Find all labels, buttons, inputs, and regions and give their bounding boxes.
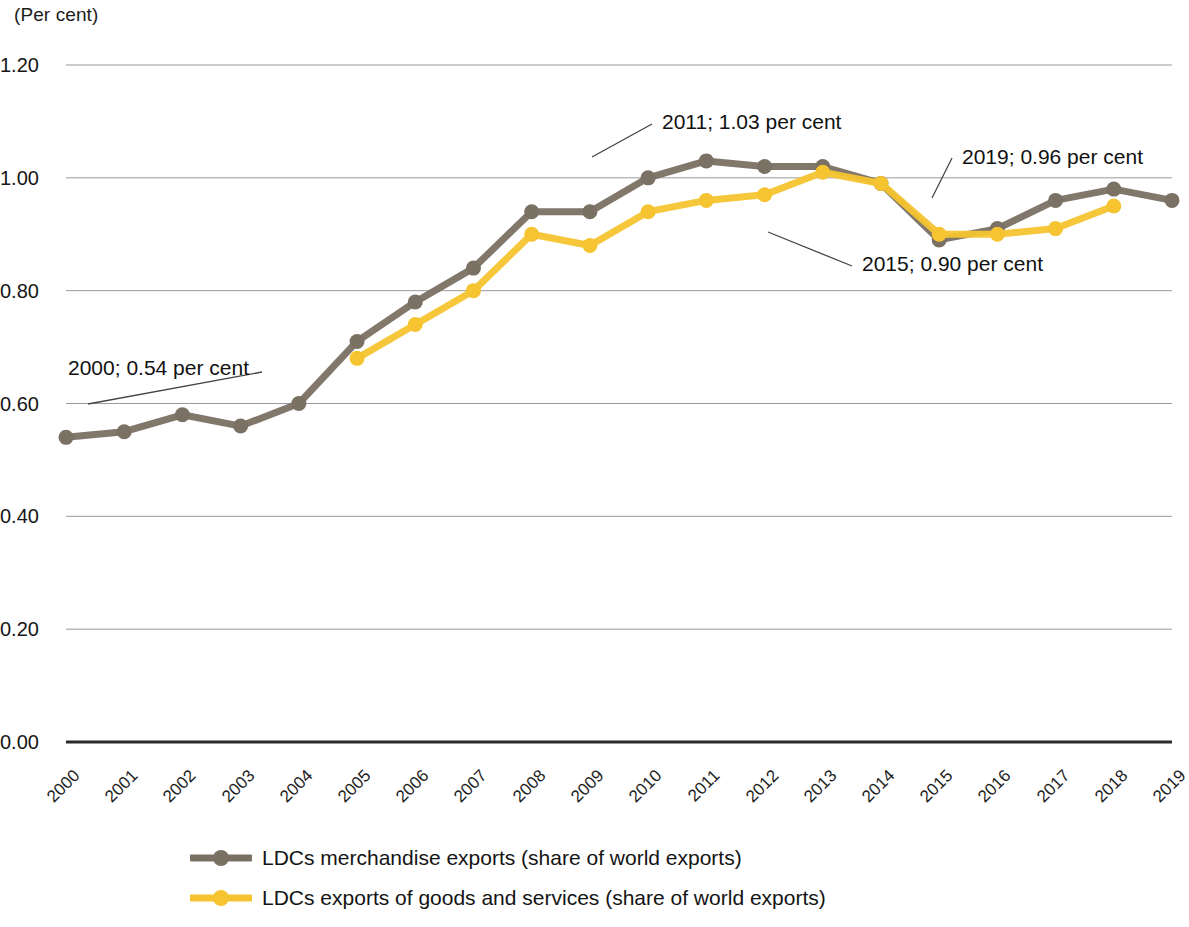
data-point-1-2013	[815, 165, 830, 180]
data-point-1-2016	[990, 227, 1005, 242]
data-point-1-2014	[873, 176, 888, 191]
y-tick-0.60: 0.60	[0, 392, 52, 415]
chart-legend: LDCs merchandise exports (share of world…	[190, 838, 1090, 918]
data-point-1-2009	[582, 238, 597, 253]
data-point-1-2015	[932, 227, 947, 242]
data-point-0-2008	[524, 204, 539, 219]
legend-swatch-1	[190, 887, 252, 909]
data-point-0-2019	[1165, 193, 1180, 208]
data-point-0-2010	[641, 170, 656, 185]
data-point-1-2018	[1106, 199, 1121, 214]
annotation-leader-2011	[592, 124, 652, 157]
y-tick-1.00: 1.00	[0, 166, 52, 189]
data-point-1-2006	[408, 317, 423, 332]
y-tick-1.20: 1.20	[0, 54, 52, 77]
data-point-0-2007	[466, 261, 481, 276]
y-tick-0.20: 0.20	[0, 618, 52, 641]
data-point-0-2017	[1048, 193, 1063, 208]
data-point-0-2001	[117, 424, 132, 439]
y-tick-0.00: 0.00	[0, 731, 52, 754]
data-point-0-2011	[699, 153, 714, 168]
data-point-1-2012	[757, 187, 772, 202]
data-point-0-2000	[59, 430, 74, 445]
data-point-1-2007	[466, 283, 481, 298]
data-point-0-2003	[233, 419, 248, 434]
legend-label-0: LDCs merchandise exports (share of world…	[262, 846, 742, 870]
legend-swatch-0	[190, 847, 252, 869]
data-point-1-2005	[350, 351, 365, 366]
annotation-2011: 2011; 1.03 per cent	[662, 110, 841, 134]
y-tick-0.80: 0.80	[0, 279, 52, 302]
annotation-leader-2015	[768, 232, 852, 266]
legend-item-1[interactable]: LDCs exports of goods and services (shar…	[190, 878, 1090, 918]
legend-dot-icon	[213, 890, 229, 906]
data-point-1-2010	[641, 204, 656, 219]
data-point-0-2002	[175, 407, 190, 422]
data-point-0-2012	[757, 159, 772, 174]
data-point-1-2017	[1048, 221, 1063, 236]
annotation-2019: 2019; 0.96 per cent	[962, 145, 1143, 169]
data-point-1-2011	[699, 193, 714, 208]
legend-dot-icon	[213, 850, 229, 866]
y-tick-0.40: 0.40	[0, 505, 52, 528]
data-point-0-2018	[1106, 182, 1121, 197]
series-line-0	[66, 161, 1172, 437]
annotation-2000: 2000; 0.54 per cent	[68, 356, 249, 380]
data-point-0-2009	[582, 204, 597, 219]
data-point-1-2008	[524, 227, 539, 242]
legend-item-0[interactable]: LDCs merchandise exports (share of world…	[190, 838, 1090, 878]
data-point-0-2006	[408, 294, 423, 309]
data-point-0-2005	[350, 334, 365, 349]
legend-label-1: LDCs exports of goods and services (shar…	[262, 886, 826, 910]
annotation-2015: 2015; 0.90 per cent	[862, 252, 1043, 276]
data-point-0-2004	[291, 396, 306, 411]
